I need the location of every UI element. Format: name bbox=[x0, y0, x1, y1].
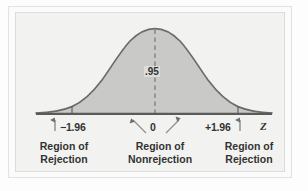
tick-label-lower-critical: −1.96 bbox=[60, 121, 86, 133]
pointer-arrow-right bbox=[166, 120, 179, 133]
tick-label-upper-critical: +1.96 bbox=[205, 121, 231, 133]
central-area-label: .95 bbox=[144, 66, 160, 77]
region-label-right-line1: Region of bbox=[208, 140, 290, 153]
region-label-left-rejection: Region of Rejection bbox=[22, 140, 106, 165]
region-label-center-line2: Nonrejection bbox=[112, 153, 208, 166]
pointer-arrow-left bbox=[133, 120, 146, 133]
figure-screenshot: .95 −1.96 0 +1.96 Z Region of Rejection … bbox=[0, 0, 308, 191]
region-label-center-nonrejection: Region of Nonrejection bbox=[112, 140, 208, 165]
axis-label-z: Z bbox=[260, 120, 267, 132]
region-label-center-line1: Region of bbox=[112, 140, 208, 153]
tick-label-center: 0 bbox=[150, 121, 156, 133]
region-label-left-line2: Rejection bbox=[22, 153, 106, 166]
region-label-right-line2: Rejection bbox=[208, 153, 290, 166]
region-label-left-line1: Region of bbox=[22, 140, 106, 153]
region-label-right-rejection: Region of Rejection bbox=[208, 140, 290, 165]
